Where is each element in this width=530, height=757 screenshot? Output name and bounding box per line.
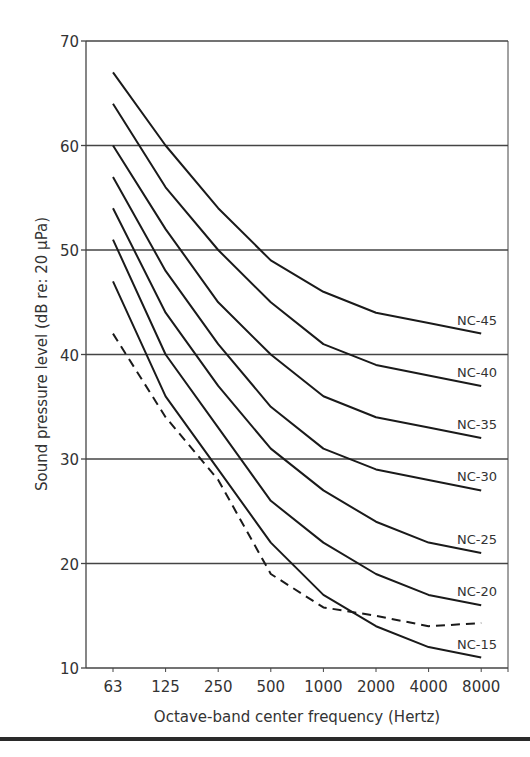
curve-label: NC-25 [457, 532, 497, 547]
x-axis-title: Octave-band center frequency (Hertz) [154, 708, 440, 726]
x-tick-label: 8000 [462, 678, 500, 696]
curve-label: NC-45 [457, 313, 497, 328]
x-tick-label: 2000 [357, 678, 395, 696]
bottom-separator [0, 737, 530, 741]
curve-nc-30 [113, 177, 481, 491]
x-tick-label: 63 [103, 678, 122, 696]
curve-label: NC-30 [457, 469, 497, 484]
curve-nc-20 [113, 240, 481, 606]
y-axis-title: Sound pressure level (dB re: 20 μPa) [33, 217, 51, 491]
curve-label: NC-40 [457, 365, 497, 380]
series-lines [113, 72, 481, 657]
curve-nc-45 [113, 72, 481, 333]
curve-label: NC-15 [457, 637, 497, 652]
x-tick-label: 125 [151, 678, 180, 696]
y-tick-label: 30 [60, 451, 79, 469]
curve-label: NC-20 [457, 584, 497, 599]
y-tick-label: 40 [60, 347, 79, 365]
x-tick-label: 4000 [410, 678, 448, 696]
y-tick-label: 70 [60, 33, 79, 51]
curve-label: NC-35 [457, 417, 497, 432]
x-tick-label: 250 [204, 678, 233, 696]
y-tick-label: 20 [60, 556, 79, 574]
curve-nc-25 [113, 208, 481, 553]
y-tick-label: 10 [60, 660, 79, 678]
y-axis-ticks: 10203040506070 [60, 33, 86, 678]
y-tick-label: 50 [60, 242, 79, 260]
x-tick-label: 500 [256, 678, 285, 696]
y-tick-label: 60 [60, 138, 79, 156]
nc-curves-chart: 10203040506070 6312525050010002000400080… [0, 0, 530, 757]
grid-lines [86, 41, 508, 564]
x-tick-label: 1000 [304, 678, 342, 696]
x-axis-ticks: 631252505001000200040008000 [103, 668, 508, 696]
